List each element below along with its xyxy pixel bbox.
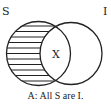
overlap-mark: X: [52, 48, 60, 61]
set-label-s: S: [2, 6, 10, 17]
set-label-i: I: [103, 6, 107, 17]
diagram-caption: A: All S are I.: [0, 90, 111, 102]
